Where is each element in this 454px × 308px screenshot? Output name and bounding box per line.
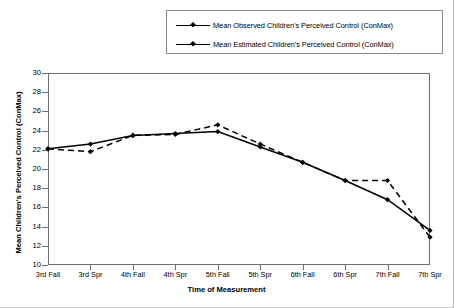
data-point-marker	[130, 133, 135, 138]
legend-line-marker-icon	[176, 40, 210, 49]
chart-legend: Mean Observed Children's Perceived Contr…	[166, 10, 443, 54]
x-tick-mark	[260, 265, 261, 270]
legend-label-estimated: Mean Estimated Children's Perceived Cont…	[213, 40, 394, 49]
x-tick-mark	[90, 265, 91, 270]
x-tick-mark	[133, 265, 134, 270]
data-point-marker	[385, 178, 390, 183]
data-point-marker	[88, 149, 93, 154]
x-axis-title: Time of Measurement	[0, 285, 453, 294]
data-point-marker	[45, 146, 50, 151]
x-tick-mark	[345, 265, 346, 270]
x-tick-label: 7th Spr	[402, 270, 454, 279]
data-point-marker	[300, 160, 305, 165]
chart-series-layer	[48, 73, 430, 265]
data-point-marker	[215, 129, 220, 134]
x-tick-mark	[218, 265, 219, 270]
legend-line-marker-icon	[176, 21, 210, 30]
legend-item-observed: Mean Observed Children's Perceived Contr…	[176, 19, 393, 31]
y-axis-title: Mean Children's Perceived Control (ConMa…	[14, 73, 23, 273]
chart-page: Mean Observed Children's Perceived Contr…	[0, 0, 454, 308]
legend-label-observed: Mean Observed Children's Perceived Contr…	[213, 21, 393, 30]
data-point-marker	[343, 178, 348, 183]
x-tick-mark	[388, 265, 389, 270]
legend-item-estimated: Mean Estimated Children's Perceived Cont…	[176, 38, 394, 50]
data-point-marker	[215, 122, 220, 127]
data-point-marker	[173, 131, 178, 136]
x-tick-mark	[175, 265, 176, 270]
x-tick-mark	[303, 265, 304, 270]
data-point-marker	[88, 141, 93, 146]
y-tick-mark	[42, 265, 48, 266]
